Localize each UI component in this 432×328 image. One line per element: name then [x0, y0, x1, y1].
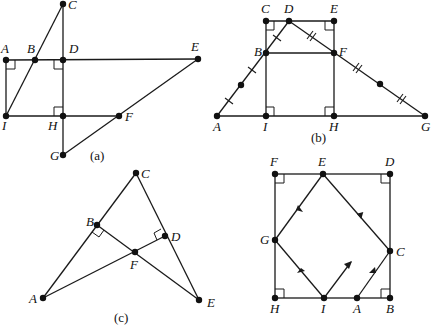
point-D-b	[286, 18, 292, 24]
arrow-GI-icon	[297, 268, 305, 273]
point-B	[32, 57, 38, 63]
point-midpoint-FG	[377, 81, 383, 87]
segment-AD	[217, 21, 289, 116]
label-D: D	[68, 41, 79, 56]
figure-c: C B D F A E (c)	[28, 166, 215, 325]
label-E-d: E	[317, 154, 326, 169]
label-B-d: B	[386, 301, 394, 316]
figure-d: F E D G C H I A B	[260, 154, 405, 316]
point-C-d	[387, 248, 393, 254]
label-G-d: G	[260, 232, 270, 247]
label-H-b: H	[328, 119, 339, 134]
figure-b: C D E B F A I H G (b)	[212, 1, 431, 145]
point-D-d	[387, 171, 393, 177]
label-I: I	[1, 118, 7, 133]
point-E-d	[320, 171, 326, 177]
label-F: F	[124, 109, 134, 124]
label-F-b: F	[338, 44, 348, 59]
ray-from-I	[324, 262, 351, 298]
point-B-c	[94, 222, 100, 228]
label-E-b: E	[329, 1, 338, 16]
label-I-b: I	[262, 119, 268, 134]
point-D-c	[162, 233, 168, 239]
label-E-c: E	[206, 295, 215, 310]
point-H	[60, 113, 66, 119]
label-F-d: F	[269, 154, 279, 169]
tick-single-2	[248, 67, 256, 73]
segment-CE	[323, 174, 390, 251]
label-E: E	[190, 39, 199, 54]
point-F-b	[331, 50, 337, 56]
arrow-ray-icon	[344, 261, 352, 269]
rectangle-FDBH	[275, 174, 390, 298]
caption-c: (c)	[114, 310, 128, 325]
segment-AD	[43, 236, 165, 298]
figure-a: C A B D E I H F G (a)	[0, 0, 201, 163]
label-C-b: C	[261, 1, 270, 16]
point-D	[60, 57, 66, 63]
label-C: C	[68, 0, 77, 12]
point-C	[60, 1, 66, 7]
point-E-b	[331, 18, 337, 24]
label-G-b: G	[421, 119, 431, 134]
point-E	[195, 56, 201, 62]
point-E-c	[196, 297, 202, 303]
point-F-c	[132, 249, 138, 255]
label-A-b: A	[212, 119, 221, 134]
arrow-AC-icon	[369, 267, 376, 273]
label-H: H	[47, 118, 58, 133]
right-angle-B-c	[92, 230, 104, 237]
point-C-b	[263, 18, 269, 24]
label-A-d: A	[352, 301, 361, 316]
label-A: A	[0, 41, 9, 56]
point-G-d	[272, 237, 278, 243]
caption-a: (a)	[90, 148, 104, 163]
point-F	[116, 113, 122, 119]
label-B-b: B	[254, 44, 262, 59]
point-A	[3, 57, 9, 63]
segment-AC	[43, 173, 136, 298]
label-A-c: A	[28, 291, 37, 306]
geometry-figures: C A B D E I H F G (a)	[0, 0, 432, 328]
label-C-c: C	[141, 166, 150, 181]
arrow-CE-icon	[357, 210, 366, 219]
label-H-d: H	[269, 301, 280, 316]
label-D-c: D	[170, 229, 181, 244]
point-F-d	[272, 171, 278, 177]
label-F-c: F	[129, 257, 139, 272]
point-C-c	[133, 170, 139, 176]
label-I-d: I	[320, 301, 326, 316]
point-B-b	[263, 50, 269, 56]
point-A-c	[40, 295, 46, 301]
label-D-d: D	[384, 154, 395, 169]
point-midpoint-AB	[238, 82, 244, 88]
segment-AC	[357, 251, 390, 298]
point-G	[60, 152, 66, 158]
label-B: B	[27, 41, 35, 56]
label-G: G	[50, 148, 60, 163]
label-D-b: D	[283, 1, 294, 16]
caption-b: (b)	[311, 130, 326, 145]
label-B-c: B	[86, 214, 94, 229]
segment-EG	[63, 59, 198, 155]
label-C-d: C	[396, 244, 405, 259]
